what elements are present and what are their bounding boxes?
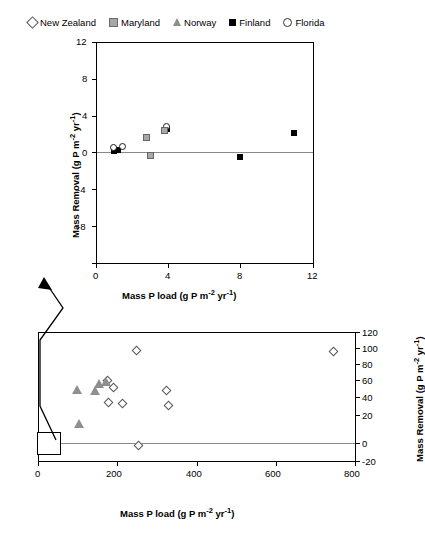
main-ytick — [356, 332, 360, 333]
inset-ytick — [92, 116, 96, 117]
detail-callout-box — [37, 432, 61, 455]
legend-label: Norway — [184, 17, 216, 28]
inset-x-axis-title: Mass P load (g P m-2 yr-1) — [122, 288, 236, 301]
main-xtick-label: 0 — [35, 468, 40, 479]
main-xtick — [355, 462, 356, 466]
main-y-axis-title: Mass Removal (g P m-2 yr-1) — [412, 336, 425, 462]
inset-xtick — [313, 264, 314, 268]
main-ytick-label: 100 — [362, 343, 378, 354]
inset-ytick-label: 12 — [76, 36, 87, 47]
inset-zero-line — [97, 152, 313, 153]
main-ytick-label: 0 — [362, 438, 367, 449]
main-ytick — [356, 443, 360, 444]
inset-xtick-label: 0 — [93, 270, 98, 281]
inset-ytick — [92, 226, 96, 227]
main-ytick-label: 60 — [362, 375, 373, 386]
main-xtick — [38, 462, 39, 466]
inset-xtick-label: 12 — [307, 270, 318, 281]
data-point-finland — [237, 154, 243, 160]
legend-label: Florida — [295, 17, 324, 28]
inset-ytick — [92, 189, 96, 190]
legend-entry-norway: Norway — [173, 17, 216, 28]
data-point-maryland — [161, 127, 168, 134]
main-ytick-label: 120 — [362, 327, 378, 338]
main-xtick — [117, 462, 118, 466]
legend-label: New Zealand — [40, 17, 96, 28]
triangle-grey-marker-icon — [173, 18, 181, 26]
data-point-finland — [291, 130, 297, 136]
inset-ytick-label: 4 — [82, 110, 87, 121]
inset-xtick-label: 8 — [237, 270, 242, 281]
main-xtick-label: 800 — [344, 468, 360, 479]
main-xtick — [197, 462, 198, 466]
inset-xtick-label: 4 — [165, 270, 170, 281]
circle-open-marker-icon — [283, 18, 292, 27]
main-ytick-label: -20 — [362, 456, 376, 467]
inset-ytick — [92, 79, 96, 80]
main-ytick-label: 40 — [362, 392, 373, 403]
main-x-axis-title: Mass P load (g P m-2 yr-1) — [120, 506, 234, 519]
main-zero-line — [39, 443, 355, 444]
inset-y-axis-title: Mass Removal (g P m-2 yr-1) — [68, 112, 81, 238]
inset-ytick — [92, 42, 96, 43]
main-ytick — [356, 397, 360, 398]
main-ytick — [356, 415, 360, 416]
main-ytick — [356, 364, 360, 365]
diamond-open-marker-icon — [26, 16, 39, 29]
data-point-norway — [74, 419, 84, 428]
legend-entry-finland: Finland — [229, 17, 270, 28]
legend-entry-new-zealand: New Zealand — [28, 17, 96, 28]
inset-xtick — [240, 264, 241, 268]
main-xtick — [276, 462, 277, 466]
data-point-florida — [119, 143, 126, 150]
inset-ytick-label: 0 — [82, 147, 87, 158]
inset-plot-area — [96, 42, 314, 264]
data-point-maryland — [147, 152, 154, 159]
legend-entry-florida: Florida — [283, 17, 324, 28]
inset-ytick — [92, 152, 96, 153]
data-point-norway — [72, 385, 82, 394]
legend-label: Maryland — [121, 17, 160, 28]
chart-legend: New Zealand Maryland Norway Finland Flor… — [28, 14, 398, 30]
main-xtick-label: 400 — [186, 468, 202, 479]
legend-label: Finland — [239, 17, 270, 28]
main-ytick-label: 80 — [362, 359, 373, 370]
data-point-maryland — [143, 134, 150, 141]
main-ytick — [356, 461, 360, 462]
main-ytick — [356, 380, 360, 381]
inset-ytick-label: 8 — [82, 73, 87, 84]
data-point-norway — [101, 377, 111, 386]
square-grey-marker-icon — [109, 18, 118, 27]
main-xtick-label: 200 — [106, 468, 122, 479]
main-ytick-label: 20 — [362, 410, 373, 421]
legend-entry-maryland: Maryland — [109, 17, 160, 28]
main-ytick — [356, 348, 360, 349]
data-point-florida — [110, 144, 117, 151]
square-black-marker-icon — [229, 19, 236, 26]
main-xtick-label: 600 — [265, 468, 281, 479]
inset-xtick — [96, 264, 97, 268]
inset-xtick — [168, 264, 169, 268]
